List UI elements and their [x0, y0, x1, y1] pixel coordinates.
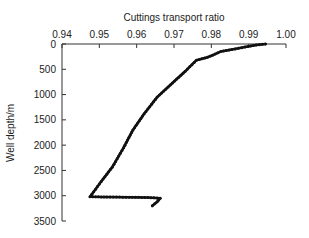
x-tick-label: 0.99: [239, 29, 259, 40]
data-point: [151, 204, 154, 207]
data-point: [150, 103, 153, 106]
data-point: [98, 183, 101, 186]
y-tick-label: 500: [39, 64, 56, 75]
x-axis-title: Cuttings transport ratio: [123, 12, 225, 23]
data-point: [234, 47, 237, 50]
data-point: [128, 196, 131, 199]
data-point: [203, 56, 206, 59]
data-point: [100, 180, 103, 183]
data-point: [121, 149, 124, 152]
data-point: [116, 157, 119, 160]
data-point: [240, 46, 243, 49]
data-point: [113, 163, 116, 166]
data-point: [96, 185, 99, 188]
data-point: [201, 57, 204, 60]
data-point: [126, 139, 129, 142]
y-tick-label: 3000: [34, 190, 57, 201]
data-point: [111, 165, 114, 168]
data-point: [131, 128, 134, 131]
data-point: [89, 195, 92, 198]
y-axis-title: Well depth/m: [5, 104, 16, 162]
x-tick-label: 0.95: [90, 29, 110, 40]
data-point: [143, 196, 146, 199]
data-point: [146, 108, 149, 111]
data-point: [154, 98, 157, 101]
data-point: [246, 45, 249, 48]
data-point: [117, 154, 120, 157]
data-point: [145, 110, 148, 113]
data-point: [112, 196, 115, 199]
data-point: [243, 46, 246, 49]
chart: Cuttings transport ratio Well depth/m 0.…: [0, 0, 309, 238]
data-point: [153, 196, 156, 199]
data-point: [258, 43, 261, 46]
data-point: [152, 100, 155, 103]
data-point: [137, 196, 140, 199]
data-point: [225, 49, 228, 52]
data-point: [100, 195, 103, 198]
data-point: [123, 144, 126, 147]
y-tick-label: 2500: [34, 165, 57, 176]
data-point: [130, 131, 133, 134]
data-point: [114, 160, 117, 163]
data-point: [109, 168, 112, 171]
data-point: [219, 50, 222, 53]
data-point: [122, 146, 125, 149]
data-point: [190, 63, 193, 66]
data-point: [230, 48, 233, 51]
data-point: [228, 49, 231, 52]
data-point: [249, 45, 252, 48]
data-point: [156, 96, 159, 99]
data-point: [94, 195, 97, 198]
y-axis: 0500100015002000250030003500: [34, 39, 66, 227]
data-point: [261, 43, 264, 46]
data-point: [102, 178, 105, 181]
data-point: [198, 58, 201, 61]
data-point: [105, 173, 108, 176]
data-point: [121, 196, 124, 199]
data-point: [107, 170, 110, 173]
data-point: [193, 61, 196, 64]
y-tick-label: 1000: [34, 89, 57, 100]
data-point: [109, 196, 112, 199]
data-point: [125, 196, 128, 199]
data-point: [103, 195, 106, 198]
x-tick-label: 1.00: [276, 29, 296, 40]
x-tick-label: 0.97: [164, 29, 184, 40]
x-tick-label: 0.96: [127, 29, 147, 40]
data-point: [90, 193, 93, 196]
series-layer: [89, 43, 267, 208]
data-point: [188, 65, 191, 68]
data-point: [119, 152, 122, 155]
data-point: [91, 195, 94, 198]
data-point: [105, 195, 108, 198]
data-point: [131, 196, 134, 199]
data-point: [222, 50, 225, 53]
y-tick-label: 1500: [34, 114, 57, 125]
data-point: [153, 202, 156, 205]
data-point: [97, 195, 100, 198]
data-point: [115, 196, 118, 199]
x-tick-label: 0.98: [202, 29, 222, 40]
data-point: [134, 196, 137, 199]
data-point: [146, 196, 149, 199]
data-point: [118, 196, 121, 199]
data-point: [148, 105, 151, 108]
data-point: [156, 200, 159, 203]
y-tick-label: 0: [50, 39, 56, 50]
data-point: [252, 44, 255, 47]
data-point: [216, 51, 219, 54]
data-point: [264, 43, 267, 46]
data-point: [255, 44, 258, 47]
data-point: [195, 59, 198, 62]
y-tick-label: 2000: [34, 140, 57, 151]
data-point: [127, 136, 130, 139]
data-point: [149, 196, 152, 199]
data-point: [140, 196, 143, 199]
data-point: [103, 175, 106, 178]
data-point: [237, 47, 240, 50]
data-point: [186, 68, 189, 71]
data-point: [125, 141, 128, 144]
y-tick-label: 3500: [34, 216, 57, 227]
data-point: [206, 56, 209, 59]
